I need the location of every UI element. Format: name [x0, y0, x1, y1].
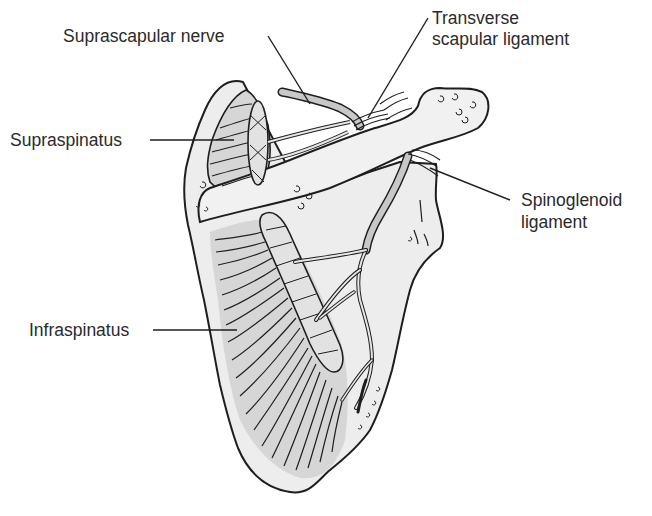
label-infraspinatus: Infraspinatus [29, 320, 129, 340]
label-spinoglenoid-line1: Spinoglenoid [521, 190, 622, 210]
scapula-illustration [0, 0, 652, 516]
label-supraspinatus: Supraspinatus [10, 130, 122, 150]
leader-spinoglenoid [430, 168, 510, 200]
label-transverse-line2: scapular ligament [432, 29, 569, 49]
scapula-diagram: Suprascapular nerve Transverse scapular … [0, 0, 652, 516]
label-suprascapular-nerve: Suprascapular nerve [63, 26, 224, 46]
label-spinoglenoid-line2: ligament [521, 212, 587, 232]
label-transverse-line1: Transverse [432, 8, 519, 28]
supraspinatus-cut-section [248, 101, 268, 185]
